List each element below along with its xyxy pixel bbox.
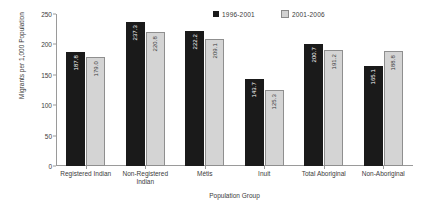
x-axis-category-label: Total Aboriginal bbox=[294, 170, 354, 186]
bar-value-label: 200.7 bbox=[311, 47, 317, 63]
y-axis-title: Migrants per 1,000 Population bbox=[18, 1, 25, 111]
bar: 179.0 bbox=[86, 57, 105, 166]
y-axis-tick-label: 250 bbox=[41, 11, 52, 18]
bar-value-label: 187.8 bbox=[73, 55, 79, 71]
bar-value-label: 125.3 bbox=[271, 94, 277, 110]
x-axis-category-label: Inuit bbox=[235, 170, 295, 186]
bar-value-label: 188.8 bbox=[390, 55, 396, 71]
x-axis-tick-mark bbox=[86, 166, 87, 169]
bar: 188.8 bbox=[384, 51, 403, 166]
x-axis-tick-mark bbox=[145, 166, 146, 169]
bar: 143.7 bbox=[245, 79, 264, 166]
bar-value-label: 222.2 bbox=[192, 34, 198, 50]
bar-value-label: 209.1 bbox=[212, 43, 218, 59]
bar: 187.8 bbox=[66, 52, 85, 166]
y-axis-tick-label: 150 bbox=[41, 71, 52, 78]
bar: 209.1 bbox=[205, 39, 224, 166]
bar-value-label: 143.7 bbox=[251, 82, 257, 98]
x-axis-tick-mark bbox=[324, 166, 325, 169]
bar: 125.3 bbox=[265, 90, 284, 166]
bar: 222.2 bbox=[185, 31, 204, 166]
x-axis-tick-mark bbox=[205, 166, 206, 169]
x-axis-category-label: Non-Aboriginal bbox=[354, 170, 414, 186]
bar-group: 222.2209.1 bbox=[175, 14, 235, 166]
bar-chart: 1996-2001 2001-2006 Migrants per 1,000 P… bbox=[0, 0, 430, 211]
x-axis-category-label: Non-Registered Indian bbox=[116, 170, 176, 186]
bar-value-label: 179.0 bbox=[93, 61, 99, 77]
bar: 165.1 bbox=[364, 66, 383, 166]
bar-group: 187.8179.0 bbox=[56, 14, 116, 166]
x-axis-category-label: Registered Indian bbox=[56, 170, 116, 186]
x-axis-title: Population Group bbox=[56, 192, 413, 199]
y-axis-tick-label: 50 bbox=[45, 132, 52, 139]
bar: 237.3 bbox=[126, 22, 145, 166]
x-axis-category-label: Métis bbox=[175, 170, 235, 186]
y-axis-tick-label: 100 bbox=[41, 102, 52, 109]
bar-group: 143.7125.3 bbox=[235, 14, 295, 166]
bar-group: 165.1188.8 bbox=[354, 14, 414, 166]
bar: 191.2 bbox=[324, 50, 343, 166]
bar-group: 200.7191.2 bbox=[294, 14, 354, 166]
bar-group: 237.3220.8 bbox=[116, 14, 176, 166]
bar: 200.7 bbox=[304, 44, 323, 166]
x-axis-tick-mark bbox=[264, 166, 265, 169]
bar-value-label: 237.3 bbox=[132, 25, 138, 41]
x-axis-category-labels: Registered IndianNon-Registered IndianMé… bbox=[56, 170, 413, 186]
bar-value-label: 220.8 bbox=[152, 36, 158, 52]
y-axis-tick-label: 0 bbox=[48, 163, 52, 170]
x-axis-tick-mark bbox=[383, 166, 384, 169]
y-axis-tick-label: 200 bbox=[41, 41, 52, 48]
bar-value-label: 165.1 bbox=[370, 69, 376, 85]
bar-groups: 187.8179.0237.3220.8222.2209.1143.7125.3… bbox=[56, 14, 413, 166]
bar-value-label: 191.2 bbox=[331, 54, 337, 70]
bar: 220.8 bbox=[146, 32, 165, 166]
plot-area: 050100150200250 187.8179.0237.3220.8222.… bbox=[56, 14, 413, 166]
